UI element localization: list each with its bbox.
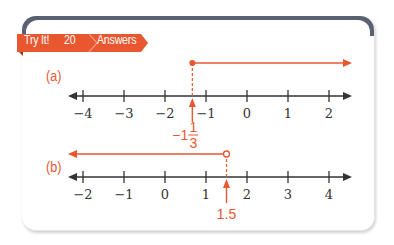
part-a-tick-label: 0 [243, 106, 251, 121]
part-b-tick-label: 4 [325, 187, 333, 202]
part-a-axis-right-arrow [343, 92, 352, 100]
part-b-boundary-label: 1.5 [217, 206, 237, 222]
part-b-tick-label: 2 [243, 187, 251, 202]
part-a-tick-label: 1 [284, 106, 292, 121]
part-b-tick-label: −1 [114, 187, 133, 202]
part-a-tick-label: 2 [325, 106, 333, 121]
part-b-tick-label: −2 [73, 187, 92, 202]
part-b-tick-label: 0 [161, 187, 169, 202]
part-a-tick-label: −4 [73, 106, 92, 121]
part-a-ray-arrow [343, 59, 352, 67]
part-a-tick-label: −1 [196, 106, 215, 121]
part-b-pointer-arrow-icon [223, 179, 230, 188]
part-b-tick-label: 1 [202, 187, 210, 202]
part-a-closed-endpoint [189, 60, 195, 66]
part-a-tick-label: −2 [155, 106, 174, 121]
number-lines: −4−3−2−1012−113−2−1012341.5 [0, 0, 394, 245]
part-b-axis-right-arrow [343, 173, 352, 181]
part-a-pointer-arrow-icon [189, 98, 196, 107]
part-b-axis-left-arrow [68, 173, 77, 181]
part-a-axis-left-arrow [68, 92, 77, 100]
part-a-boundary-label-denominator: 3 [189, 135, 197, 151]
part-a-boundary-label-whole: −1 [172, 127, 188, 143]
part-a-boundary-label-numerator: 1 [189, 119, 197, 135]
part-a-tick-label: −3 [114, 106, 133, 121]
part-b-tick-label: 3 [284, 187, 292, 202]
part-b-open-endpoint [224, 151, 230, 157]
part-b-ray-arrow [68, 150, 77, 158]
